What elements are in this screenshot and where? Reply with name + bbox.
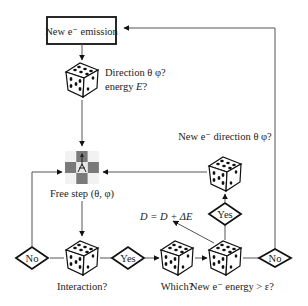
connector-energy-to-dose [173,221,214,243]
new-direction-label: New e⁻ direction θ φ? [178,131,272,142]
decision-energy-yes-label: Yes [217,209,232,220]
dice-icon [161,241,193,275]
dice-icon [66,241,98,275]
emission-box: New e⁻ emission [45,17,118,44]
dice-icon [66,63,98,97]
dice-icon [209,157,241,191]
which-label: Which? [161,281,194,292]
interaction-label: Interaction? [57,281,107,292]
dice-icon [209,241,241,275]
free-step-label: Free step (θ, φ) [50,188,115,200]
energy-check-label: New e⁻ energy > ε? [190,281,274,292]
decision-energy-no-label: No [269,253,282,264]
flowchart: New e⁻ emission Direction θ φ? energy E?… [0,0,308,306]
direction-energy-label-line2: energy E? [105,81,147,92]
direction-energy-label-line1: Direction θ φ? [105,67,166,78]
connector-no-to-free-step [32,172,62,247]
dose-update-label: D = D + ΔE [139,211,193,222]
decision-interaction-no-label: No [26,253,39,264]
decision-interaction-yes-label: Yes [120,253,135,264]
emission-box-label: New e⁻ emission [45,26,118,37]
random-walk-grid-icon [65,151,99,184]
